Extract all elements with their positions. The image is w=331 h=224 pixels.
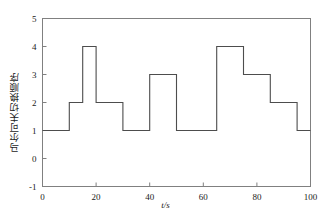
svg-text:4: 4 (32, 42, 37, 52)
chart-figure: 020406080100 -1012345 马尔可夫切换顺序 t/s (0, 0, 331, 224)
y-axis-ticks (43, 19, 47, 187)
step-series-line (43, 47, 311, 131)
x-axis-label: t/s (0, 200, 331, 210)
y-axis-label: 马尔可夫切换顺序 (8, 72, 22, 152)
svg-text:5: 5 (32, 14, 37, 24)
step-plot-svg: 020406080100 -1012345 (0, 0, 331, 224)
y-axis-label-wrap: 马尔可夫切换顺序 (6, 0, 24, 224)
svg-text:0: 0 (32, 154, 37, 164)
svg-text:-1: -1 (29, 182, 37, 192)
svg-text:1: 1 (32, 126, 37, 136)
x-axis-ticks (43, 183, 311, 187)
svg-text:3: 3 (32, 70, 37, 80)
svg-text:2: 2 (32, 98, 37, 108)
y-axis-tick-labels: -1012345 (29, 14, 37, 192)
